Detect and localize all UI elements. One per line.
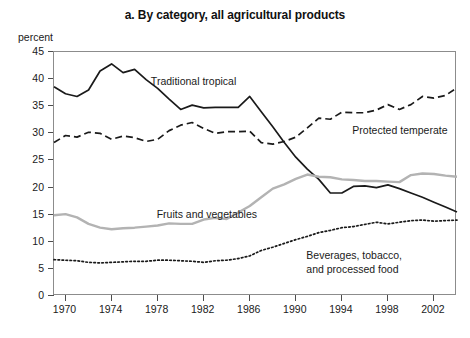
series-annotation: Beverages, tobacco, and processed food	[306, 249, 402, 275]
y-axis-label: percent	[18, 31, 53, 43]
series-line	[54, 64, 457, 212]
chart-title: a. By category, all agricultural product…	[0, 8, 470, 22]
y-tick-label: 5	[18, 262, 44, 274]
x-tick-label: 1970	[43, 303, 87, 315]
x-tick-label: 1998	[365, 303, 409, 315]
x-tick-label: 1978	[135, 303, 179, 315]
chart-container: a. By category, all agricultural product…	[0, 0, 470, 338]
series-annotation: Protected temperate	[352, 124, 447, 137]
x-tick-label: 1974	[89, 303, 133, 315]
y-tick-label: 0	[18, 289, 44, 301]
y-tick-label: 10	[18, 235, 44, 247]
y-tick-label: 15	[18, 208, 44, 220]
x-tick-label: 1994	[319, 303, 363, 315]
y-tick-label: 20	[18, 181, 44, 193]
x-tick-label: 1990	[273, 303, 317, 315]
x-tick-label: 2002	[411, 303, 455, 315]
series-annotation: Traditional tropical	[151, 75, 236, 88]
series-annotation: Fruits and vegetables	[157, 208, 257, 221]
x-tick-label: 1982	[181, 303, 225, 315]
y-tick-label: 25	[18, 153, 44, 165]
y-tick-label: 40	[18, 72, 44, 84]
y-tick-label: 35	[18, 99, 44, 111]
y-tick-label: 30	[18, 126, 44, 138]
y-tick-label: 45	[18, 45, 44, 57]
x-tick-label: 1986	[227, 303, 271, 315]
